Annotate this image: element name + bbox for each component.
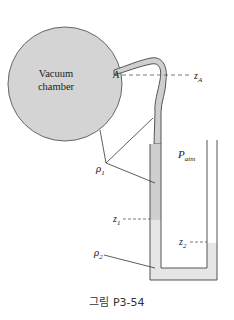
right-leg-fluid2 bbox=[207, 243, 217, 280]
manometer-diagram: Vacuum chamber A zA Patm ρ1 z1 z2 ρ2 그림 … bbox=[0, 0, 234, 320]
rho1-leader-3 bbox=[106, 163, 155, 183]
connecting-tube bbox=[114, 58, 166, 144]
rho1-leader-1 bbox=[100, 130, 106, 163]
chamber-label-line1: Vacuum bbox=[39, 68, 73, 79]
za-label: zA bbox=[193, 70, 203, 84]
rho1-label: ρ1 bbox=[95, 162, 105, 177]
rho1-leader-2 bbox=[106, 118, 153, 163]
point-a-label: A bbox=[112, 69, 120, 80]
bottom-fluid2 bbox=[150, 268, 217, 280]
figure-caption: 그림 P3-54 bbox=[89, 296, 144, 309]
rho2-leader bbox=[104, 255, 155, 268]
rho2-label: ρ2 bbox=[93, 246, 103, 261]
z2-label: z2 bbox=[178, 236, 187, 250]
patm-label: Patm bbox=[177, 148, 195, 163]
chamber-label-line2: chamber bbox=[38, 81, 75, 92]
z1-label: z1 bbox=[112, 213, 120, 227]
